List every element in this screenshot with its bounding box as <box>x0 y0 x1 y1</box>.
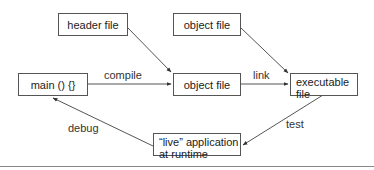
edge-label-compile: compile <box>104 69 142 81</box>
node-executable-file: executable file <box>290 73 358 96</box>
edge-header-to-object <box>128 28 171 72</box>
node-main: main () {} <box>18 73 88 96</box>
node-header-file: header file <box>58 13 128 36</box>
node-object-file-top: object file <box>173 13 241 36</box>
bottom-divider <box>0 166 374 167</box>
node-object-file-mid: object file <box>173 73 241 96</box>
edge-label-test: test <box>286 118 304 130</box>
node-label: main () {} <box>31 79 76 91</box>
edge-object-to-executable <box>241 28 288 73</box>
edge-label-link: link <box>253 69 270 81</box>
node-label-line2: at runtime <box>159 148 240 160</box>
node-label: header file <box>67 19 118 31</box>
node-live-application: “live” application at runtime <box>153 133 241 156</box>
node-label-line1: “live” application <box>159 136 240 148</box>
node-label-line1: executable <box>296 76 357 88</box>
edge-test <box>243 95 323 145</box>
node-label: object file <box>184 19 230 31</box>
node-label-line2: file <box>296 88 357 100</box>
edge-label-debug: debug <box>68 122 99 134</box>
node-label: object file <box>184 79 230 91</box>
build-cycle-diagram: header file object file main () {} objec… <box>0 0 374 170</box>
